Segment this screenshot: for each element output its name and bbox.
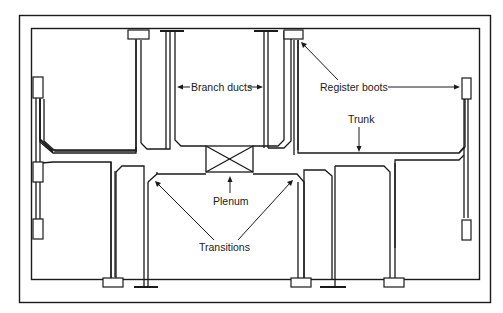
- label-register-boots: Register boots: [301, 42, 460, 93]
- transitions-label: Transitions: [199, 241, 250, 253]
- register-boot-top-right: [284, 30, 303, 39]
- register-boot-right-lower: [462, 220, 471, 240]
- right-upper-trunk: [294, 40, 465, 155]
- register-boot-bottom-right: [384, 278, 404, 287]
- plenum-label: Plenum: [213, 195, 249, 207]
- duct-layout-diagram: Branch ducts Register boots Trunk Plenum…: [0, 0, 503, 313]
- register-boot-left-lower: [33, 219, 43, 239]
- register-boot-left-middle: [33, 162, 43, 182]
- branch-duct-top-right: [264, 31, 298, 150]
- register-boot-bottom-left: [103, 278, 123, 287]
- register-boot-right-upper: [462, 78, 471, 99]
- register-boot-left-upper: [33, 77, 43, 98]
- plenum: [206, 146, 253, 172]
- branch-ducts-label: Branch ducts: [191, 81, 252, 93]
- building-wall: [32, 29, 480, 280]
- trunk-label: Trunk: [348, 113, 375, 125]
- left-upper-trunk: [40, 37, 137, 153]
- branch-duct-bottom-right: [298, 163, 395, 287]
- register-boot-top-left: [128, 30, 149, 39]
- outer-frame: [20, 16, 491, 303]
- label-plenum: Plenum: [213, 176, 249, 207]
- register-boot-bottom-center: [291, 278, 311, 287]
- label-transitions: Transitions: [155, 180, 293, 253]
- label-branch-ducts: Branch ducts: [177, 81, 263, 93]
- right-wall-ducts: [395, 99, 468, 248]
- left-wall-ducts: [36, 98, 111, 280]
- label-trunk: Trunk: [348, 113, 375, 152]
- branch-duct-bottom-left: [111, 162, 144, 280]
- register-boots-label: Register boots: [320, 81, 388, 93]
- lower-transition: [148, 172, 304, 278]
- branch-duct-top-left: [136, 31, 170, 150]
